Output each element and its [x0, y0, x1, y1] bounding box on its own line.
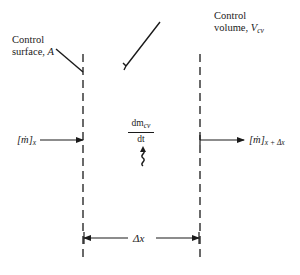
- width-label-text: Δx: [133, 232, 144, 244]
- width-label: Δx: [133, 232, 144, 244]
- rate-denominator: dt: [128, 133, 154, 144]
- control-volume-label-line1: Control: [214, 10, 264, 22]
- inflow-label: [ṁ]x: [17, 134, 36, 149]
- control-volume-label-line2: volume, Vcv: [214, 22, 264, 37]
- control-surface-symbol: A: [48, 46, 54, 57]
- rate-numerator-subscript: cv: [144, 121, 151, 130]
- mass-accumulation-rate: dmcv dt: [128, 118, 154, 144]
- accumulation-wavy-arrow-icon: [142, 150, 144, 166]
- inflow-symbol: [ṁ]: [17, 134, 33, 145]
- control-surface-label: Control surface, A: [12, 34, 54, 58]
- outflow-subscript: x + Δx: [265, 138, 285, 147]
- outflow-symbol: [ṁ]: [249, 134, 265, 145]
- control-surface-label-line1: Control: [12, 34, 54, 46]
- control-volume-label: Control volume, Vcv: [214, 10, 264, 37]
- rate-numerator: dmcv: [128, 118, 154, 133]
- control-surface-leader-line: [56, 49, 83, 72]
- control-surface-label-line2: surface, A: [12, 46, 54, 58]
- control-surface-text: surface,: [12, 46, 48, 57]
- control-volume-leader-line: [123, 22, 160, 70]
- rate-numerator-text: dm: [132, 118, 144, 128]
- control-volume-subscript: cv: [257, 26, 264, 35]
- outflow-label: [ṁ]x + Δx: [249, 134, 285, 149]
- wavy-arrow-head: [140, 146, 146, 152]
- inflow-subscript: x: [33, 138, 36, 147]
- control-volume-text: volume,: [214, 22, 251, 33]
